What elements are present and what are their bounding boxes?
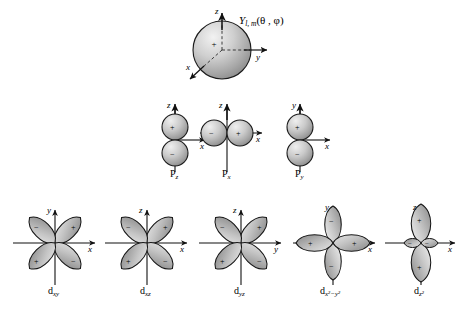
formula-subscript: l, m xyxy=(245,19,256,28)
orbital-label-sub: z xyxy=(176,173,179,181)
axis-label-y: y xyxy=(325,202,329,212)
sign-minus: − xyxy=(329,262,334,271)
axis-label-z: z xyxy=(139,205,143,215)
orbitals-svg: + + − − + + − xyxy=(0,0,462,311)
orbital-diagram: + + − − + + − xyxy=(0,0,462,311)
orbital-d-x2-y2: − − + + xyxy=(293,206,375,285)
sign-plus: + xyxy=(308,239,313,248)
orbital-d-xy: − + + − xyxy=(13,210,95,285)
sign-plus: + xyxy=(126,257,131,266)
axis-label-x: x xyxy=(88,244,92,254)
orbital-label-d-xy: dxy xyxy=(48,285,59,298)
orbital-d-xz: − + + − xyxy=(105,210,187,285)
sign-minus: − xyxy=(170,150,175,159)
sign-plus: + xyxy=(295,123,300,132)
sign-minus: − xyxy=(209,129,214,138)
axis-label-z: z xyxy=(215,6,219,16)
orbital-d-yz: − + + − xyxy=(199,210,281,285)
sign-minus: − xyxy=(425,240,429,248)
orbital-label-p-x: Px xyxy=(222,168,231,181)
orbital-label-sub: yz xyxy=(239,290,245,298)
sign-plus: + xyxy=(352,239,357,248)
orbital-label-sub: x xyxy=(228,173,231,181)
axis-label-x: x xyxy=(448,244,452,254)
axis-label-y: y xyxy=(274,244,278,254)
sign-plus: + xyxy=(170,123,175,132)
axis-label-x: x xyxy=(180,244,184,254)
sign-plus: + xyxy=(236,129,241,138)
sign-minus: − xyxy=(220,223,225,232)
sign-minus: − xyxy=(295,150,300,159)
sign-plus: + xyxy=(71,223,76,232)
axis-label-z: z xyxy=(219,100,223,110)
sign-plus: + xyxy=(417,263,422,272)
sign-minus: − xyxy=(257,257,262,266)
orbital-label-sub: x²−y² xyxy=(325,290,340,298)
orbital-label-d-z2: dz² xyxy=(414,285,424,298)
axis-label-y: y xyxy=(292,100,296,110)
axis-label-x: x xyxy=(256,134,260,144)
sign-plus: + xyxy=(34,257,39,266)
axis-label-x: x xyxy=(200,141,204,151)
sign-minus: − xyxy=(329,217,334,226)
sign-plus: + xyxy=(211,39,216,49)
orbital-label-sub: xy xyxy=(53,290,59,298)
orbital-label-d-yz: dyz xyxy=(234,285,245,298)
orbital-p-z: + − xyxy=(162,104,205,172)
spherical-harmonic-formula: Yl, m(θ , φ) xyxy=(239,14,284,28)
sign-plus: + xyxy=(257,223,262,232)
sign-minus: − xyxy=(126,223,131,232)
axis-label-y: y xyxy=(256,52,260,62)
formula-args: (θ , φ) xyxy=(256,14,283,26)
axis-label-x: x xyxy=(186,62,190,72)
orbital-label-sub: y xyxy=(301,173,304,181)
axis-label-z: z xyxy=(167,100,171,110)
sign-minus: − xyxy=(71,257,76,266)
axis-label-x: x xyxy=(325,141,329,151)
orbital-p-x: − + xyxy=(200,104,262,172)
orbital-label-p-z: Pz xyxy=(170,168,178,181)
axis-label-y: y xyxy=(47,205,51,215)
sign-minus: − xyxy=(34,223,39,232)
orbital-d-z2: + + − − xyxy=(385,204,455,285)
orbital-p-y: + − xyxy=(287,104,330,172)
orbital-label-sub: z² xyxy=(419,290,424,298)
axis-label-x: x xyxy=(368,244,372,254)
axis-label-z: z xyxy=(233,205,237,215)
sign-plus: + xyxy=(163,223,168,232)
sign-plus: + xyxy=(417,216,422,225)
sign-minus: − xyxy=(163,257,168,266)
orbital-label-p-y: Py xyxy=(295,168,304,181)
axis-label-z: z xyxy=(413,202,417,212)
sign-plus: + xyxy=(220,257,225,266)
orbital-label-d-x2-y2: dx²−y² xyxy=(320,285,340,298)
orbital-label-d-xz: dxz xyxy=(140,285,151,298)
orbital-label-sub: xz xyxy=(145,290,151,298)
sign-minus: − xyxy=(408,240,412,248)
